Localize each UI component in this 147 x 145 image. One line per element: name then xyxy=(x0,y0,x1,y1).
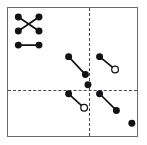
data-point-node xyxy=(128,120,135,127)
data-segment-start-node xyxy=(96,90,103,97)
data-segment-start-node xyxy=(96,53,103,60)
plot-surface xyxy=(8,8,137,136)
figure-root xyxy=(0,0,147,145)
plot-frame xyxy=(7,7,138,137)
marker-layer xyxy=(8,8,137,136)
data-segment-end-node xyxy=(112,66,119,73)
legend-marker-node xyxy=(35,42,42,49)
data-segment-line xyxy=(69,57,86,75)
legend-marker-node xyxy=(15,42,22,49)
legend-marker-node xyxy=(15,28,22,35)
data-segment-start-node xyxy=(65,90,72,97)
legend-marker-node xyxy=(35,13,42,20)
legend-marker-node xyxy=(35,28,42,35)
data-point-node xyxy=(84,81,91,88)
legend-marker-node xyxy=(15,13,22,20)
data-segment-line xyxy=(100,94,117,111)
figure-caption xyxy=(0,0,1,1)
data-segment-end-node xyxy=(81,104,88,111)
data-segment-end-node xyxy=(82,71,89,78)
data-segment-end-node xyxy=(113,107,120,114)
data-segment-start-node xyxy=(65,53,72,60)
